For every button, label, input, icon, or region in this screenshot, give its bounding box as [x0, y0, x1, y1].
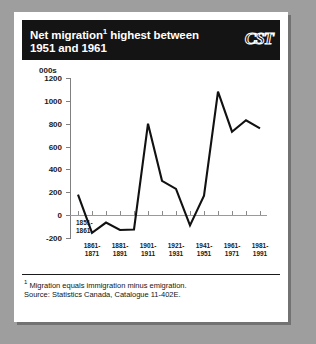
footer-divider — [22, 274, 280, 275]
title-line2: 1951 and 1961 — [30, 42, 107, 54]
footnote-body: Migration equals immigration minus emigr… — [27, 281, 186, 290]
title-line1-cont: highest between — [107, 28, 199, 40]
figure-inner: Net migration1 highest between 1951 and … — [22, 20, 280, 314]
net-migration-line — [22, 60, 280, 274]
title-line1-text: Net migration — [30, 28, 103, 40]
figure-panel: Net migration1 highest between 1951 and … — [14, 12, 288, 322]
figure-titlebar: Net migration1 highest between 1951 and … — [22, 20, 280, 60]
page-title: Net migration1 highest between 1951 and … — [22, 25, 199, 56]
page-background: Net migration1 highest between 1951 and … — [0, 0, 316, 344]
source-text: Source: Statistics Canada, Catalogue 11-… — [22, 290, 280, 300]
chart-area: 000s -200020040060080010001200 1851- 186… — [22, 60, 280, 274]
cst-logo: CST — [245, 29, 273, 49]
figure-footer: 1 Migration equals immigration minus emi… — [22, 278, 280, 300]
footnote-text: 1 Migration equals immigration minus emi… — [22, 278, 280, 290]
series-path — [78, 92, 260, 233]
